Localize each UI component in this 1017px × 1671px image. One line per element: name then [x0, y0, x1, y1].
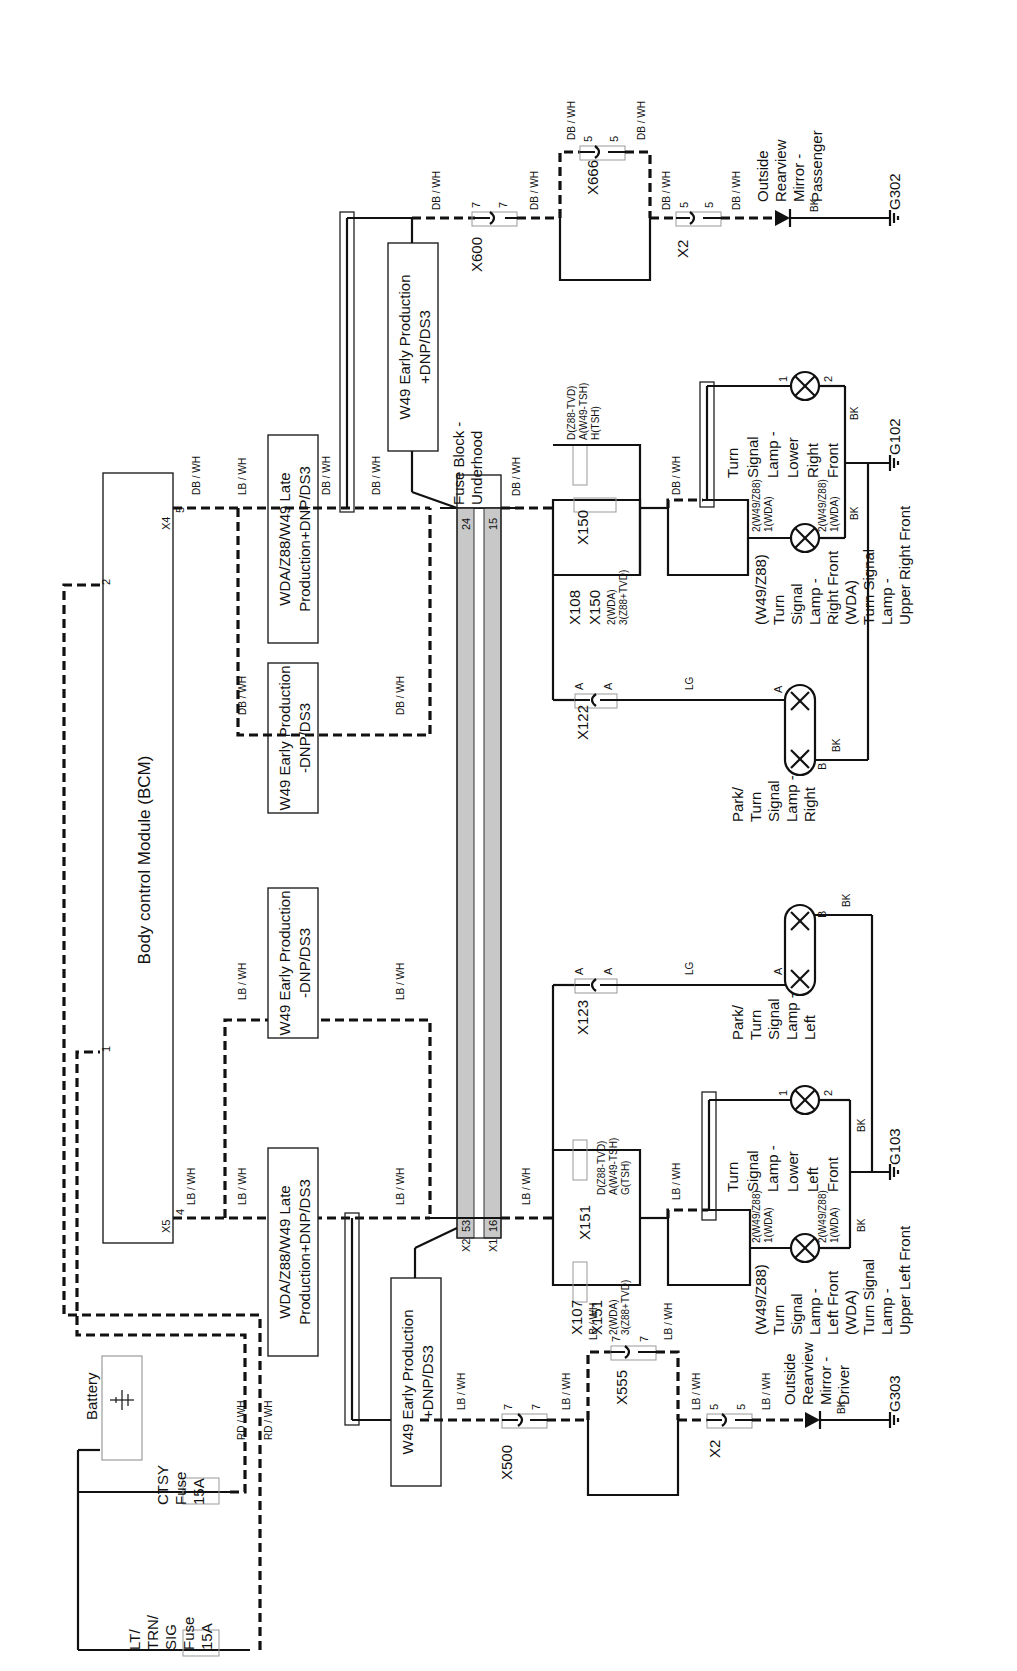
svg-text:LB / WH: LB / WH — [395, 1168, 406, 1205]
lamp-icon — [791, 372, 819, 400]
svg-text:LG: LG — [684, 676, 695, 690]
svg-text:X2: X2 — [674, 240, 691, 258]
svg-text:24: 24 — [460, 518, 472, 530]
fuse-block-underhood: Fuse Block - Underhood 24 15 X2 53 X1 16 — [415, 422, 501, 1278]
svg-text:7: 7 — [638, 1336, 650, 1342]
svg-text:A: A — [602, 682, 614, 690]
bcm-label: Body control Module (BCM) — [135, 756, 154, 965]
svg-text:DB / WH: DB / WH — [529, 171, 540, 210]
svg-text:X5: X5 — [160, 1220, 172, 1233]
svg-text:(WDA): (WDA) — [842, 580, 859, 625]
svg-text:X107: X107 — [568, 1300, 585, 1335]
svg-text:(WDA): (WDA) — [842, 1290, 859, 1335]
svg-text:DB / WH: DB / WH — [671, 456, 682, 495]
svg-text:A: A — [573, 682, 585, 690]
park-right-label: Park/ Turn Signal Lamp - Right — [729, 775, 818, 822]
svg-text:B: B — [816, 763, 828, 770]
tsl-lower-right-label: Turn Signal Lamp - Lower Right Front — [724, 431, 841, 478]
svg-text:RD / WH: RD / WH — [236, 1401, 247, 1440]
svg-text:LB / WH: LB / WH — [521, 1168, 532, 1205]
svg-text:X600: X600 — [468, 237, 485, 272]
park-lamp-left-icon — [785, 905, 815, 995]
svg-text:(W49/Z88): (W49/Z88) — [752, 1264, 769, 1335]
svg-text:X2: X2 — [460, 1239, 472, 1252]
svg-text:Signal: Signal — [788, 583, 805, 625]
svg-text:Upper Right Front: Upper Right Front — [896, 505, 913, 625]
svg-text:Rearview: Rearview — [799, 1342, 816, 1405]
svg-text:Right: Right — [801, 786, 818, 822]
park-lamp-right-icon — [785, 685, 815, 775]
svg-text:X151: X151 — [576, 1205, 593, 1240]
svg-text:Front: Front — [824, 442, 841, 478]
park-left-label: Park/ Turn Signal Lamp - Left — [729, 993, 818, 1040]
svg-text:Front: Front — [824, 1156, 841, 1192]
wiring-diagram: Battery CTSY Fuse 15A LT/ TRN/ SIG Fuse … — [0, 0, 1017, 1671]
svg-text:Lamp -: Lamp - — [806, 1288, 823, 1335]
svg-text:BK: BK — [841, 893, 852, 907]
svg-text:DB / WH: DB / WH — [371, 456, 382, 495]
option-box-late-right: WDA/Z88/W49 Late Production+DNP/DS3 — [268, 435, 318, 643]
svg-text:Park/: Park/ — [729, 1004, 746, 1040]
svg-text:D(Z88-TVD): D(Z88-TVD) — [566, 386, 577, 440]
svg-text:X1: X1 — [487, 1239, 499, 1252]
svg-text:7: 7 — [497, 202, 509, 208]
svg-text:W49 Early Production: W49 Early Production — [396, 274, 413, 419]
svg-text:5: 5 — [678, 202, 690, 208]
svg-text:1(WDA): 1(WDA) — [829, 1207, 840, 1243]
svg-text:LB / WH: LB / WH — [395, 963, 406, 1000]
svg-text:X500: X500 — [498, 1445, 515, 1480]
option-box-early-minus-left: W49 Early Production -DNP/DS3 — [268, 888, 318, 1038]
svg-text:LB / WH: LB / WH — [237, 458, 248, 495]
svg-text:DB / WH: DB / WH — [731, 171, 742, 210]
svg-text:Left: Left — [804, 1166, 821, 1192]
svg-text:Outside: Outside — [754, 150, 771, 202]
battery-label: Battery — [83, 1372, 100, 1420]
svg-text:Outside: Outside — [781, 1353, 798, 1405]
svg-text:Turn: Turn — [747, 1010, 764, 1040]
svg-text:Turn: Turn — [724, 448, 741, 478]
svg-text:LB / WH: LB / WH — [186, 1168, 197, 1205]
svg-text:Mirror -: Mirror - — [817, 1357, 834, 1405]
svg-text:Right Front: Right Front — [824, 550, 841, 625]
svg-text:(W49/Z88): (W49/Z88) — [752, 554, 769, 625]
svg-text:Park/: Park/ — [729, 786, 746, 822]
svg-text:Driver: Driver — [835, 1365, 852, 1405]
svg-text:Turn: Turn — [724, 1162, 741, 1192]
svg-text:LB / WH: LB / WH — [561, 1373, 572, 1410]
svg-text:Signal: Signal — [765, 780, 782, 822]
svg-text:-DNP/DS3: -DNP/DS3 — [296, 703, 313, 773]
svg-text:X122: X122 — [574, 705, 591, 740]
svg-text:WDA/Z88/W49 Late: WDA/Z88/W49 Late — [276, 1185, 293, 1318]
svg-text:7: 7 — [470, 202, 482, 208]
svg-text:Upper Left Front: Upper Left Front — [896, 1225, 913, 1335]
svg-text:5: 5 — [582, 136, 594, 142]
mirror-passenger-label: Outside Rearview Mirror - Passenger — [754, 130, 825, 202]
svg-text:LB / WH: LB / WH — [691, 1373, 702, 1410]
ground-icon — [890, 455, 898, 471]
option-box-early-plus-left: W49 Early Production +DNP/DS3 — [391, 1278, 441, 1486]
option-box-early-minus-right: W49 Early Production -DNP/DS3 — [268, 663, 318, 813]
svg-text:DB / WH: DB / WH — [431, 171, 442, 210]
svg-text:LB / WH: LB / WH — [237, 1168, 248, 1205]
svg-text:A(W49-TSH): A(W49-TSH) — [578, 383, 589, 440]
svg-text:2(W49/Z88): 2(W49/Z88) — [817, 479, 828, 532]
svg-text:H(TSH): H(TSH) — [590, 406, 601, 440]
svg-text:LB / WH: LB / WH — [761, 1373, 772, 1410]
svg-text:Rearview: Rearview — [772, 139, 789, 202]
svg-text:Signal: Signal — [744, 1150, 761, 1192]
svg-text:LG: LG — [684, 961, 695, 975]
svg-text:Left Front: Left Front — [824, 1270, 841, 1335]
svg-text:5: 5 — [708, 1404, 720, 1410]
svg-text:WDA/Z88/W49 Late: WDA/Z88/W49 Late — [276, 472, 293, 605]
led-icon — [775, 210, 790, 226]
svg-text:DB / WH: DB / WH — [395, 676, 406, 715]
option-box-early-plus-right: W49 Early Production +DNP/DS3 — [388, 243, 438, 451]
svg-text:Turn Signal: Turn Signal — [860, 1259, 877, 1335]
svg-text:1: 1 — [100, 1046, 112, 1052]
option-box-late-left: WDA/Z88/W49 Late Production+DNP/DS3 — [268, 1148, 318, 1356]
svg-text:G102: G102 — [886, 418, 903, 455]
svg-text:BK: BK — [831, 738, 842, 752]
svg-text:Lamp -: Lamp - — [764, 1145, 781, 1192]
svg-text:A: A — [772, 685, 784, 693]
svg-text:2: 2 — [822, 376, 834, 382]
